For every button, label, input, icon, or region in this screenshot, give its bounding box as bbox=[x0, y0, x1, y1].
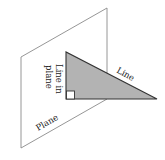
label-line-in-plane-2: plane bbox=[44, 65, 54, 89]
right-triangle bbox=[66, 52, 157, 99]
plane-line-diagram: Line in plane Line Plane bbox=[0, 0, 165, 160]
label-line-in-plane-1: Line in bbox=[54, 64, 64, 94]
right-angle-marker bbox=[67, 91, 75, 99]
